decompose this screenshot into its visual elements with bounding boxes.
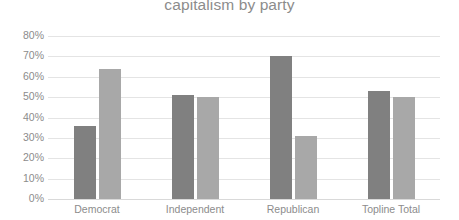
chart-screenshot: capitalism by party 80%70%60%50%40%30%20…	[0, 0, 459, 220]
y-tick-label: 50%	[0, 91, 44, 102]
y-tick-label: 60%	[0, 71, 44, 82]
x-tick-label: Topline Total	[342, 203, 440, 216]
bar-republican-series-1[interactable]	[270, 56, 292, 199]
gridline-0	[48, 199, 440, 200]
y-tick-label: 0%	[0, 193, 44, 204]
bar-independent-series-1[interactable]	[172, 95, 194, 199]
bar-democrat-series-1[interactable]	[74, 126, 96, 199]
y-tick-label: 30%	[0, 132, 44, 143]
bar-democrat-series-2[interactable]	[99, 69, 121, 199]
chart-title: capitalism by party	[0, 0, 459, 14]
x-axis: DemocratIndependentRepublicanTopline Tot…	[48, 203, 440, 220]
bar-independent-series-2[interactable]	[197, 97, 219, 199]
y-tick-label: 70%	[0, 50, 44, 61]
y-tick-label: 10%	[0, 173, 44, 184]
y-tick-label: 40%	[0, 112, 44, 123]
y-tick-label: 20%	[0, 152, 44, 163]
bar-topline-total-series-1[interactable]	[368, 91, 390, 199]
x-tick-label: Independent	[146, 203, 244, 216]
y-tick-label: 80%	[0, 30, 44, 41]
bar-republican-series-2[interactable]	[295, 136, 317, 199]
x-tick-label: Republican	[244, 203, 342, 216]
bars-layer	[48, 36, 440, 199]
y-axis: 80%70%60%50%40%30%20%10%0%	[0, 0, 44, 220]
x-tick-label: Democrat	[48, 203, 146, 216]
bar-topline-total-series-2[interactable]	[393, 97, 415, 199]
